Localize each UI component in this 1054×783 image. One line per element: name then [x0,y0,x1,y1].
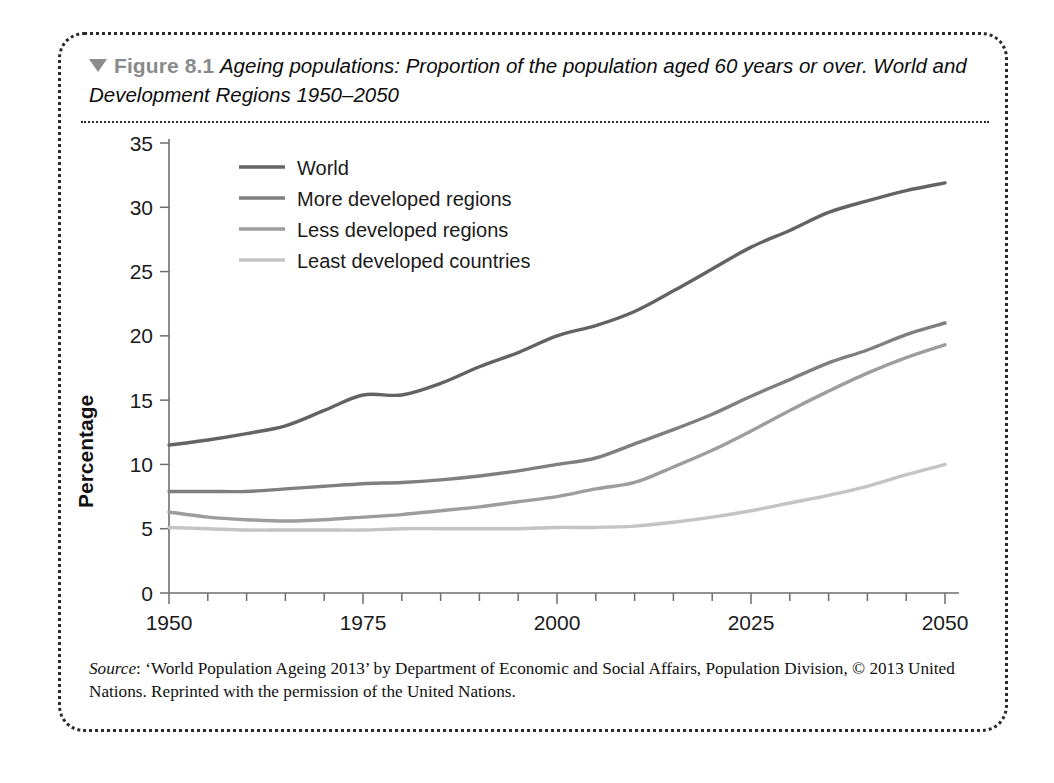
y-tick-label: 25 [130,260,153,283]
legend-label: Least developed countries [297,250,531,272]
y-tick-label: 20 [130,324,153,347]
x-tick-label: 2025 [728,611,775,634]
y-tick-label: 30 [130,196,153,219]
x-tick-label: 1950 [146,611,193,634]
figure-number-label: Figure 8.1 [114,54,214,77]
y-tick-label: 10 [130,453,153,476]
legend-label: World [297,157,349,179]
source-word-label: Source [89,659,136,678]
y-tick-label: 15 [130,389,153,412]
legend-label: More developed regions [297,188,512,210]
figure-caption-block: Figure 8.1 Ageing populations: Proportio… [81,45,989,123]
source-note: Source: ‘World Population Ageing 2013’ b… [89,657,981,703]
figure-caption-text: Ageing populations: Proportion of the po… [89,54,967,106]
series-line-world [169,183,945,445]
ageing-population-line-chart: 0510152025303519501975200020252050 World… [61,123,1005,643]
chart-legend: WorldMore developed regionsLess develope… [239,157,531,272]
x-tick-label: 2050 [922,611,969,634]
series-line-more-developed-regions [169,323,945,492]
y-tick-label: 5 [141,517,153,540]
figure-card: Figure 8.1 Ageing populations: Proportio… [58,32,1008,732]
triangle-down-icon [89,59,107,72]
x-tick-label: 2000 [534,611,581,634]
legend-label: Less developed regions [297,219,508,241]
y-tick-label: 35 [130,132,153,155]
chart-series-group [169,183,945,530]
chart-region: 0510152025303519501975200020252050 World… [61,123,1005,643]
source-text: : ‘World Population Ageing 2013’ by Depa… [89,659,955,701]
y-axis-title: Percentage [74,395,97,508]
x-tick-label: 1975 [340,611,387,634]
figure-caption-line: Figure 8.1 Ageing populations: Proportio… [89,51,985,109]
y-tick-label: 0 [141,582,153,605]
